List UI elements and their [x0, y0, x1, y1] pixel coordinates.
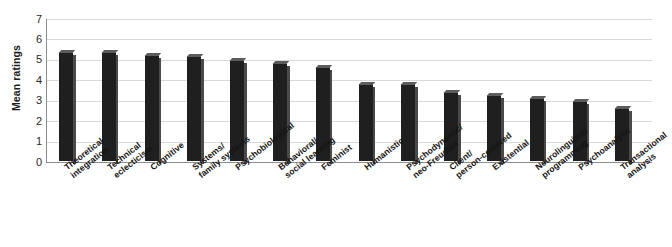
bar	[401, 84, 415, 161]
gridline	[47, 121, 652, 122]
bar	[359, 84, 373, 161]
y-axis-tick: 4	[26, 75, 42, 86]
y-axis-tick: 2	[26, 116, 42, 127]
y-axis-tick: 1	[26, 136, 42, 147]
y-axis-tick: 0	[26, 157, 42, 168]
y-axis-tick: 6	[26, 34, 42, 45]
bar	[59, 53, 73, 161]
bar	[530, 99, 544, 161]
bar	[187, 57, 201, 161]
y-axis-tick: 5	[26, 54, 42, 65]
gridline	[47, 101, 652, 102]
gridline	[47, 39, 652, 40]
gridline	[47, 19, 652, 20]
x-axis-category-labels: TheoreticalintegrationTechnicaleclectici…	[46, 165, 658, 247]
y-axis-title: Mean ratings	[10, 23, 22, 133]
y-axis-tick: 3	[26, 95, 42, 106]
y-axis-tick: 7	[26, 14, 42, 25]
gridline	[47, 80, 652, 81]
y-axis-line	[46, 19, 47, 163]
gridline	[47, 60, 652, 61]
bar	[273, 64, 287, 161]
